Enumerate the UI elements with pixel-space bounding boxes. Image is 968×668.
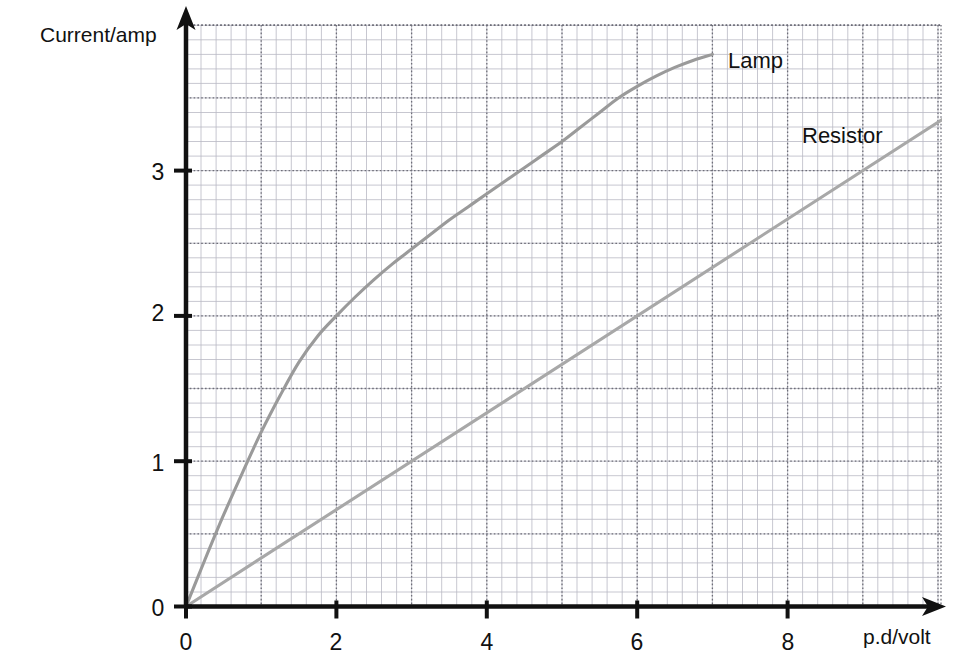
y-tick-label-0: 0 <box>152 595 165 621</box>
current-voltage-chart: Current/amp p.d/volt 0 1 2 3 0 2 4 6 8 L… <box>0 0 968 668</box>
x-tick-label-4: 4 <box>481 629 494 655</box>
series-label-resistor: Resistor <box>802 123 883 148</box>
chart-background <box>0 0 968 668</box>
series-label-lamp: Lamp <box>728 48 783 73</box>
y-tick-label-1: 1 <box>152 450 165 476</box>
x-tick-label-0: 0 <box>180 629 193 655</box>
x-tick-label-6: 6 <box>631 629 644 655</box>
chart-page: Current/amp p.d/volt 0 1 2 3 0 2 4 6 8 L… <box>0 0 968 668</box>
x-axis-title: p.d/volt <box>863 625 931 648</box>
y-axis-title: Current/amp <box>40 23 157 46</box>
x-tick-label-8: 8 <box>782 629 795 655</box>
y-tick-label-2: 2 <box>152 300 165 326</box>
x-tick-label-2: 2 <box>330 629 343 655</box>
y-tick-label-3: 3 <box>152 159 165 185</box>
